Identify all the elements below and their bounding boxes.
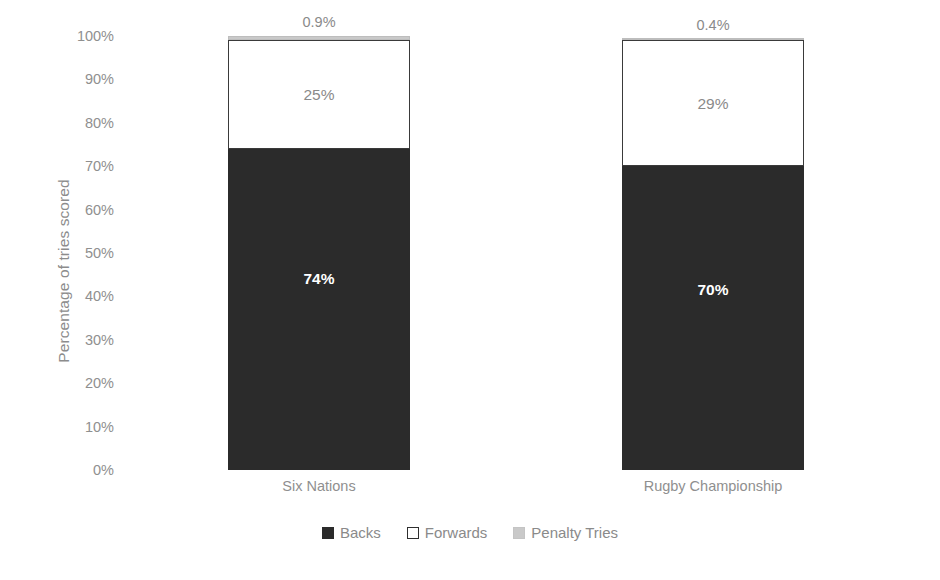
chart-legend: BacksForwardsPenalty Tries	[0, 524, 940, 541]
y-axis-tick-labels: 0%10%20%30%40%50%60%70%80%90%100%	[58, 36, 114, 470]
y-axis-tick-label: 90%	[58, 71, 114, 87]
y-axis-tick-label: 60%	[58, 202, 114, 218]
bar-segment-forwards[interactable]: 25%	[228, 40, 410, 149]
legend-item-penalty-tries[interactable]: Penalty Tries	[513, 524, 618, 541]
y-axis-tick-label: 40%	[58, 288, 114, 304]
x-axis-category-label: Six Nations	[122, 478, 516, 494]
legend-item-forwards[interactable]: Forwards	[407, 524, 488, 541]
bar-segment-label-forwards: 25%	[303, 87, 334, 103]
y-axis-tick-label: 100%	[58, 28, 114, 44]
bar-group: 70%29%0.4%	[516, 36, 910, 470]
y-axis-tick-label: 50%	[58, 245, 114, 261]
bar-segment-backs[interactable]: 74%	[228, 149, 410, 470]
stacked-bar[interactable]: 74%25%0.9%	[228, 36, 410, 470]
bar-segment-penalty-tries[interactable]	[228, 36, 410, 40]
stacked-bar[interactable]: 70%29%0.4%	[622, 36, 804, 470]
legend-item-backs[interactable]: Backs	[322, 524, 381, 541]
bar-group: 74%25%0.9%	[122, 36, 516, 470]
white-outlined-square-icon	[407, 527, 419, 539]
legend-item-label: Forwards	[425, 524, 488, 541]
bar-segment-label-backs: 70%	[697, 282, 728, 298]
stacked-bar-chart: Percentage of tries scored 0%10%20%30%40…	[0, 0, 940, 580]
y-axis-tick-label: 20%	[58, 375, 114, 391]
plot-area: 74%25%0.9%70%29%0.4%	[122, 36, 910, 470]
bar-segment-label-forwards: 29%	[697, 96, 728, 112]
x-axis-category-labels: Six NationsRugby Championship	[122, 478, 910, 502]
bar-segment-penalty-tries[interactable]	[622, 38, 804, 40]
y-axis-tick-label: 80%	[58, 115, 114, 131]
bar-segment-label-backs: 74%	[303, 271, 334, 287]
bar-segment-label-penalty-tries: 0.9%	[228, 14, 410, 30]
bar-segment-forwards[interactable]: 29%	[622, 40, 804, 166]
legend-item-label: Penalty Tries	[531, 524, 618, 541]
black-filled-square-icon	[322, 527, 334, 539]
bar-segment-backs[interactable]: 70%	[622, 166, 804, 470]
y-axis-tick-label: 70%	[58, 158, 114, 174]
legend-item-label: Backs	[340, 524, 381, 541]
y-axis-tick-label: 30%	[58, 332, 114, 348]
x-axis-category-label: Rugby Championship	[516, 478, 910, 494]
y-axis-tick-label: 0%	[58, 462, 114, 478]
y-axis-tick-label: 10%	[58, 419, 114, 435]
bar-segment-label-penalty-tries: 0.4%	[622, 17, 804, 33]
gray-filled-square-icon	[513, 527, 525, 539]
